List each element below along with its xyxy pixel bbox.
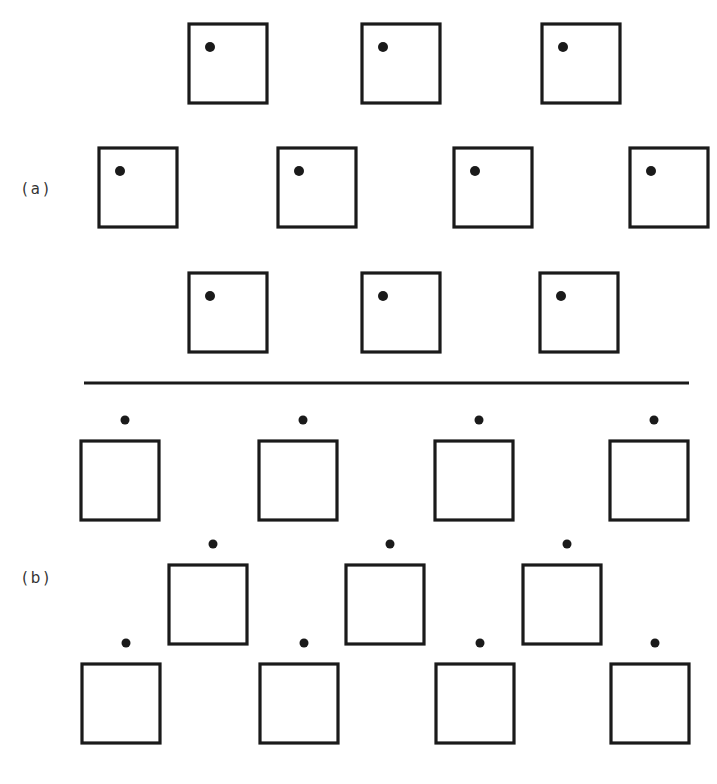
atom-dot xyxy=(294,166,304,176)
atom-dot xyxy=(122,639,131,648)
atom-dot xyxy=(115,166,125,176)
atom-dot xyxy=(300,639,309,648)
square-box xyxy=(611,664,689,743)
atom-dot xyxy=(205,42,215,52)
square-box xyxy=(542,24,620,103)
lattice-cell xyxy=(278,148,356,227)
lattice-cell xyxy=(454,148,532,227)
lattice-cell xyxy=(99,148,177,227)
atom-dot xyxy=(205,291,215,301)
atom-dot xyxy=(475,416,484,425)
atom-dot xyxy=(556,291,566,301)
lattice-cell xyxy=(189,273,267,352)
lattice-cell xyxy=(346,540,424,645)
atom-dot xyxy=(476,639,485,648)
lattice-cell xyxy=(82,639,160,744)
atom-dot xyxy=(378,42,388,52)
figure-canvas: (a) (b) xyxy=(0,0,717,784)
lattice-cell xyxy=(260,639,338,744)
square-box xyxy=(189,273,267,352)
atom-dot xyxy=(563,540,572,549)
lattice-cell xyxy=(362,24,440,103)
square-box xyxy=(523,565,601,644)
square-box xyxy=(278,148,356,227)
panel-label-a: (a) xyxy=(22,180,52,198)
square-box xyxy=(346,565,424,644)
atom-dot xyxy=(299,416,308,425)
lattice-cell xyxy=(630,148,708,227)
lattice-cell xyxy=(436,639,514,744)
lattice-cell xyxy=(189,24,267,103)
square-box xyxy=(189,24,267,103)
atom-dot xyxy=(386,540,395,549)
square-box xyxy=(169,565,247,644)
lattice-cell xyxy=(259,416,337,521)
square-box xyxy=(435,441,513,520)
atom-dot xyxy=(651,639,660,648)
square-box xyxy=(362,24,440,103)
square-box xyxy=(454,148,532,227)
square-box xyxy=(81,441,159,520)
panel-label-b: (b) xyxy=(22,569,52,587)
lattice-cell xyxy=(542,24,620,103)
atom-dot xyxy=(378,291,388,301)
square-box xyxy=(540,273,618,352)
square-box xyxy=(610,441,688,520)
atom-dot xyxy=(121,416,130,425)
square-box xyxy=(362,273,440,352)
lattice-cell xyxy=(169,540,247,645)
atom-dot xyxy=(650,416,659,425)
square-box xyxy=(630,148,708,227)
lattice-cell xyxy=(435,416,513,521)
atom-dot xyxy=(558,42,568,52)
lattice-cell xyxy=(540,273,618,352)
square-box xyxy=(82,664,160,743)
atom-dot xyxy=(646,166,656,176)
square-box xyxy=(260,664,338,743)
lattice-cell xyxy=(610,416,688,521)
square-box xyxy=(99,148,177,227)
square-box xyxy=(436,664,514,743)
lattice-cell xyxy=(523,540,601,645)
lattice-cell xyxy=(611,639,689,744)
atom-dot xyxy=(209,540,218,549)
lattice-cell xyxy=(81,416,159,521)
atom-dot xyxy=(470,166,480,176)
lattice-cell xyxy=(362,273,440,352)
square-box xyxy=(259,441,337,520)
